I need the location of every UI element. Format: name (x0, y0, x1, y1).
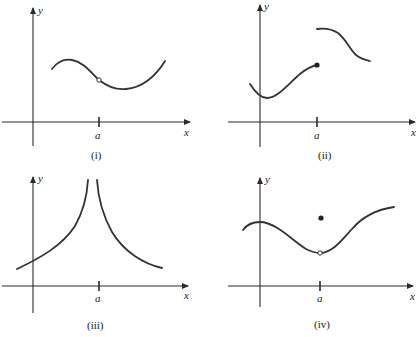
y-axis-label: y (37, 4, 43, 16)
panel-caption: (ii) (318, 149, 332, 162)
x-axis-label: x (183, 289, 189, 301)
panel-iii: y x a (iii) (2, 172, 189, 332)
function-curve (243, 207, 394, 253)
tick-label-a: a (95, 292, 101, 304)
y-axis-label: y (37, 172, 43, 184)
tick-label-a: a (317, 292, 323, 304)
panel-i: y x a (i) (2, 4, 190, 162)
filled-dot-endpoint (314, 62, 319, 67)
discontinuity-figure: y x a (i) y x a (ii) y x a (iii) y (0, 0, 420, 337)
panel-iv: y x a (iv) (228, 173, 415, 331)
panel-ii: y x a (ii) (228, 0, 416, 162)
x-axis-label: x (410, 126, 416, 138)
y-axis-label: y (263, 0, 269, 12)
right-branch-curve (97, 180, 162, 268)
panel-caption: (iv) (314, 318, 330, 331)
tick-label-a: a (95, 129, 101, 141)
open-circle-hole (97, 78, 101, 82)
panel-caption: (iii) (87, 319, 104, 332)
left-branch-curve (17, 180, 88, 269)
panel-caption: (i) (91, 149, 102, 162)
open-circle-hole (318, 251, 322, 255)
x-axis-label: x (409, 290, 415, 302)
function-curve (52, 60, 165, 89)
filled-dot-value (318, 215, 323, 220)
tick-label-a: a (314, 129, 320, 141)
y-axis-label: y (264, 173, 270, 185)
right-branch-curve (317, 29, 370, 61)
x-axis-label: x (183, 126, 189, 138)
